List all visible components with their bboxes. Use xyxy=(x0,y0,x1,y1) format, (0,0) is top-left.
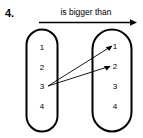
relation-label: is bigger than xyxy=(38,7,134,17)
left-element-2: 2 xyxy=(35,64,49,72)
question-number: 4. xyxy=(5,7,14,19)
right-element-1: 1 xyxy=(108,43,122,51)
mapping-diagram-figure: 4. is bigger than 1 2 3 4 1 2 3 4 xyxy=(0,0,143,138)
relation-arrow xyxy=(39,19,137,25)
left-element-3: 3 xyxy=(35,83,49,91)
right-element-3: 3 xyxy=(108,83,122,91)
relation-arrow-head xyxy=(130,19,137,25)
left-element-1: 1 xyxy=(35,44,49,52)
left-element-4: 4 xyxy=(35,103,49,111)
right-element-2: 2 xyxy=(108,63,122,71)
right-element-4: 4 xyxy=(108,103,122,111)
